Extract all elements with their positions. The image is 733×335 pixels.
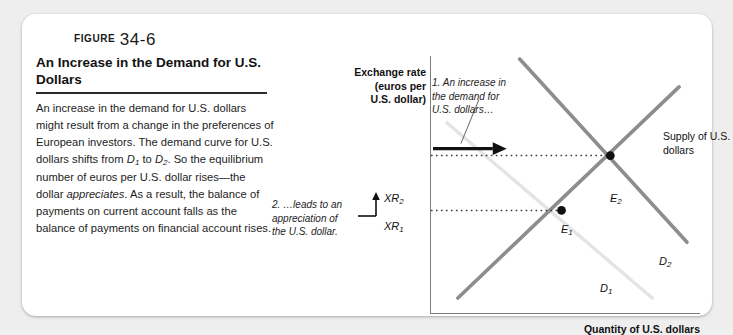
annotation-1-line2: the demand for [432,90,542,104]
curve-label-d1: D1 [600,282,612,296]
equilibrium-point-e2 [606,151,615,160]
annotation-1-line3: U.S. dollars… [432,103,542,117]
y-tick-xr2: XR2 [384,192,404,206]
y-tick-xr1: XR1 [384,220,404,234]
body-appreciates: appreciates [66,188,124,200]
figure-number-line: FIGURE 34-6 [74,30,156,50]
y-axis-label-line2: (euros per [326,80,426,94]
figure-title: An Increase in the Demand for U.S. Dolla… [36,54,286,89]
price-increase-arrow [354,190,384,234]
figure-card: FIGURE 34-6 An Increase in the Demand fo… [22,14,712,316]
figure-number: 34-6 [120,30,156,49]
d2-sub: 2 [667,260,671,269]
annotation-1: 1. An increase in the demand for U.S. do… [432,76,542,117]
d2-text: D [659,255,667,267]
body-mid: to [139,153,155,165]
y-tick-xr2-text: XR [384,192,399,204]
y-tick-xr1-text: XR [384,220,399,232]
equilibrium-point-e1 [557,206,566,215]
figure-label: FIGURE [74,33,115,44]
figure-body-text: An increase in the demand for U.S. dolla… [36,100,276,237]
y-tick-xr1-sub: 1 [399,225,403,234]
curve-label-supply: Supply of U.S. dollars [663,130,733,157]
e1-sub: 1 [568,228,572,237]
annotation-1-line1: 1. An increase in [432,76,542,90]
y-axis-label-line1: Exchange rate [326,66,426,80]
equilibrium-label-e2: E2 [610,192,622,206]
y-axis-label: Exchange rate (euros per U.S. dollar) [326,66,426,107]
body-d1: D [127,153,135,165]
x-axis-label: Quantity of U.S. dollars [584,323,700,335]
supply-curve [458,87,679,298]
body-d2: D [155,153,163,165]
e2-sub: 2 [617,197,621,206]
curve-label-d2: D2 [659,255,671,269]
d1-text: D [600,282,608,294]
d1-sub: 1 [608,287,612,296]
y-axis-label-line3: U.S. dollar) [326,93,426,107]
title-divider [36,92,267,94]
equilibrium-label-e1: E1 [561,223,573,237]
y-tick-xr2-sub: 2 [399,197,403,206]
